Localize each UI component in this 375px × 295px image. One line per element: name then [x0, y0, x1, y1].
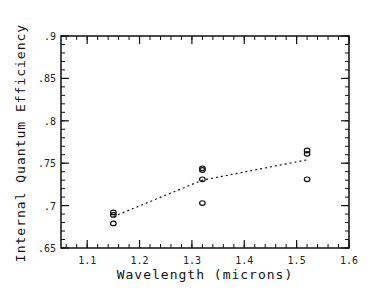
chart: 1.11.21.31.41.51.6 .65.7.75.8.85.9 Wavel…: [0, 0, 375, 295]
data-points: [111, 148, 310, 226]
y-tick-label: .7: [44, 201, 56, 212]
data-point-marker: [200, 177, 206, 182]
x-tick-label: 1.3: [183, 255, 201, 266]
y-tick-label: .65: [38, 243, 56, 254]
plot-frame: [61, 36, 349, 248]
y-tick-label: .9: [44, 31, 56, 42]
mean-trend-line: [113, 160, 307, 217]
x-tick-label: 1.4: [235, 255, 253, 266]
y-axis-label: Internal Quantum Efficiency: [13, 24, 28, 262]
x-tick-label: 1.5: [288, 255, 306, 266]
x-axis-label: Wavelength (microns): [117, 267, 294, 282]
y-tick-label: .75: [38, 158, 56, 169]
y-tick-label: .85: [38, 73, 56, 84]
data-point-marker: [304, 177, 310, 182]
data-point-marker: [111, 221, 117, 226]
x-tick-label: 1.6: [340, 255, 358, 266]
x-tick-label: 1.1: [78, 255, 96, 266]
axis-ticks: [61, 36, 349, 248]
y-tick-label: .8: [44, 116, 56, 127]
x-tick-label: 1.2: [131, 255, 149, 266]
y-tick-labels: .65.7.75.8.85.9: [38, 31, 56, 254]
data-point-marker: [200, 201, 206, 206]
x-tick-labels: 1.11.21.31.41.51.6: [78, 255, 358, 266]
